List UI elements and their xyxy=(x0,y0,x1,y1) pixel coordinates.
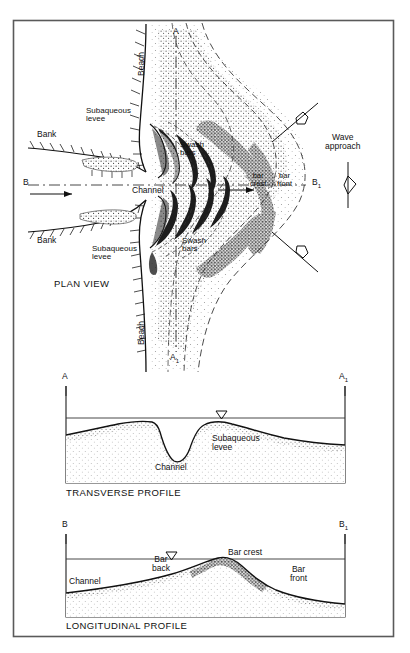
longitudinal-label-bar-front: Bar front xyxy=(290,565,307,583)
plan-marker-b1-sub: 1 xyxy=(318,183,321,189)
longitudinal-label-bar-back: Bar back xyxy=(152,555,170,573)
plan-label-bar-crest: bar crest xyxy=(250,172,266,188)
figure-root: Beach Beach Bank Bank Subaqueous levee S… xyxy=(0,0,410,653)
plan-label-beach-top: Beach xyxy=(137,52,146,76)
plan-view-graphic xyxy=(28,23,356,372)
shoreline-lower xyxy=(139,200,146,372)
longitudinal-marker-b: B xyxy=(62,520,68,529)
diagram-canvas xyxy=(0,0,410,653)
bank-sand-lens-lower xyxy=(80,210,136,224)
longitudinal-marker-b1-sub: 1 xyxy=(345,525,348,531)
wave-approach-symbol xyxy=(344,162,356,208)
plan-label-swash-bars-top: Swash bars xyxy=(180,141,204,158)
transverse-label-channel: Channel xyxy=(155,463,187,472)
plan-label-bank-bottom: Bank xyxy=(37,236,56,245)
flow-arrow-left xyxy=(30,191,72,197)
plan-label-wave-approach: Wave approach xyxy=(325,133,360,151)
plan-marker-a-top: A xyxy=(173,27,179,36)
plan-label-channel: Channel xyxy=(132,186,164,195)
plan-label-subaqueous-levee-bottom: Subaqueous levee xyxy=(92,245,137,262)
plan-label-bar-front: bar front xyxy=(277,172,292,188)
transverse-label-subaqueous-levee: Subaqueous levee xyxy=(212,434,260,452)
transverse-profile-graphic xyxy=(66,386,345,483)
plan-label-bank-top: Bank xyxy=(37,130,56,139)
beach-hachures-upper xyxy=(130,30,145,166)
plan-marker-a1-sub: 1 xyxy=(176,358,179,364)
bank-sand-lens-upper xyxy=(82,157,137,172)
plan-label-swash-bars-bottom: Swash bars xyxy=(182,237,206,254)
longitudinal-label-channel: Channel xyxy=(69,577,101,586)
transverse-profile-caption: TRANSVERSE PROFILE xyxy=(66,488,181,498)
longitudinal-label-bar-crest: Bar crest xyxy=(228,548,262,557)
wave-ray-lower xyxy=(272,232,318,272)
plan-label-subaqueous-levee-top: Subaqueous levee xyxy=(86,107,131,124)
plan-marker-b1-right: B1 xyxy=(312,178,321,189)
transverse-marker-a1-sub: 1 xyxy=(345,377,348,383)
transverse-marker-a1: A1 xyxy=(339,372,348,383)
plan-marker-b-left: B xyxy=(23,178,29,187)
plan-marker-a1-bottom: A1 xyxy=(170,353,179,364)
longitudinal-marker-b1: B1 xyxy=(339,520,348,531)
longitudinal-profile-caption: LONGITUDINAL PROFILE xyxy=(66,621,187,631)
shoreline-upper xyxy=(139,24,146,172)
plan-view-section-caption: PLAN VIEW xyxy=(54,279,109,289)
transverse-marker-a: A xyxy=(62,372,68,381)
plan-label-beach-bottom: Beach xyxy=(137,321,146,345)
